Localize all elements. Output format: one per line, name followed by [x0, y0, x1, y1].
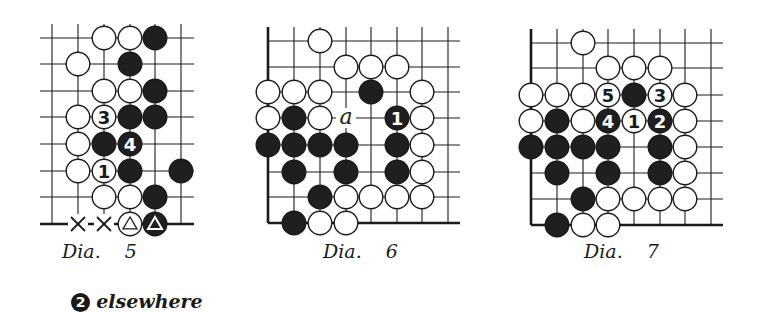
white-stone-1: 1: [622, 109, 646, 133]
white-stone-icon: [596, 213, 620, 237]
white-stone-icon: [334, 211, 358, 235]
white-stone: [66, 52, 90, 76]
move-number: 5: [602, 85, 615, 106]
white-stone: [118, 185, 142, 209]
white-stone-icon: [673, 187, 697, 211]
white-stone-icon: [308, 29, 332, 53]
white-stone-icon: [92, 26, 116, 50]
move-number: 3: [98, 107, 111, 128]
white-stone-icon: [359, 55, 383, 79]
white-stone-icon: [410, 133, 434, 157]
white-stone: [66, 105, 90, 129]
white-stone: [519, 83, 543, 107]
white-stone: [673, 187, 697, 211]
white-stone: [118, 26, 142, 50]
white-stone-icon: [545, 83, 569, 107]
white-stone-icon: [308, 211, 332, 235]
white-stone: [410, 160, 434, 184]
black-stone: [143, 79, 167, 103]
white-stone: [256, 80, 280, 104]
white-stone: [334, 55, 358, 79]
black-stone-icon: [282, 133, 306, 157]
black-stone-icon: [545, 213, 569, 237]
black-stone: [622, 83, 646, 107]
black-stone-icon: [256, 133, 280, 157]
move-number: 4: [602, 111, 615, 132]
black-stone: [385, 160, 409, 184]
black-stone-icon: [334, 133, 358, 157]
black-stone-1: 1: [385, 106, 409, 130]
white-stone-icon: [66, 159, 90, 183]
black-stone-icon: [622, 83, 646, 107]
white-stone: [385, 185, 409, 209]
white-stone: [673, 109, 697, 133]
black-stone: [143, 212, 167, 236]
black-stone-icon: [359, 80, 383, 104]
white-stone: [673, 135, 697, 159]
point-label-a: a: [339, 104, 352, 129]
diagram-5-caption: Dia. 5: [62, 240, 137, 262]
white-stone: [571, 109, 595, 133]
black-stone: [308, 185, 332, 209]
white-stone-icon: [66, 52, 90, 76]
black-stone-icon: [169, 159, 193, 183]
white-stone: [410, 80, 434, 104]
black-stone: [143, 26, 167, 50]
white-stone-icon: [673, 83, 697, 107]
white-stone-1: 1: [92, 159, 116, 183]
white-stone: [673, 83, 697, 107]
white-stone-icon: [596, 56, 620, 80]
move-number: 2: [654, 111, 667, 132]
diagram-6: a1: [256, 27, 460, 235]
white-stone-5: 5: [596, 83, 620, 107]
black-stone: [334, 133, 358, 157]
white-stone-icon: [308, 106, 332, 130]
white-stone-icon: [410, 185, 434, 209]
white-stone: [648, 56, 672, 80]
white-stone: [66, 159, 90, 183]
black-stone: [118, 52, 142, 76]
white-stone-icon: [673, 135, 697, 159]
black-stone: [571, 187, 595, 211]
white-stone-icon: [66, 132, 90, 156]
white-stone: [92, 79, 116, 103]
white-stone: [385, 55, 409, 79]
white-stone: [410, 185, 434, 209]
white-stone: [545, 83, 569, 107]
diagram-5: 341: [40, 24, 194, 236]
black-stone-icon: [545, 161, 569, 185]
black-stone-icon: [282, 160, 306, 184]
white-stone-icon: [385, 55, 409, 79]
diagram-7-caption: Dia. 7: [584, 240, 659, 262]
black-stone-icon: [143, 79, 167, 103]
black-stone: [282, 160, 306, 184]
move-number: 1: [391, 108, 404, 129]
black-stone-4: 4: [118, 132, 142, 156]
black-stone-icon: [571, 187, 595, 211]
diagram-6-caption: Dia. 6: [323, 240, 398, 262]
black-stone-2: 2: [648, 109, 672, 133]
black-stone-4: 4: [596, 109, 620, 133]
white-stone-icon: [648, 56, 672, 80]
white-stone: [308, 29, 332, 53]
white-stone-icon: [66, 105, 90, 129]
white-stone-icon: [622, 187, 646, 211]
black-stone: [282, 133, 306, 157]
white-stone-icon: [410, 160, 434, 184]
white-stone-icon: [308, 80, 332, 104]
black-stone: [256, 133, 280, 157]
white-stone-icon: [334, 55, 358, 79]
white-stone: [571, 83, 595, 107]
black-stone: [334, 160, 358, 184]
white-stone: [308, 80, 332, 104]
white-stone: [673, 161, 697, 185]
black-stone-icon: [596, 135, 620, 159]
white-stone-icon: [118, 26, 142, 50]
black-stone-icon: [118, 105, 142, 129]
black-stone-icon: [385, 160, 409, 184]
black-stone-icon: [545, 109, 569, 133]
white-stone: [308, 211, 332, 235]
black-stone: [385, 133, 409, 157]
black-stone: [143, 105, 167, 129]
white-stone-icon: [622, 56, 646, 80]
